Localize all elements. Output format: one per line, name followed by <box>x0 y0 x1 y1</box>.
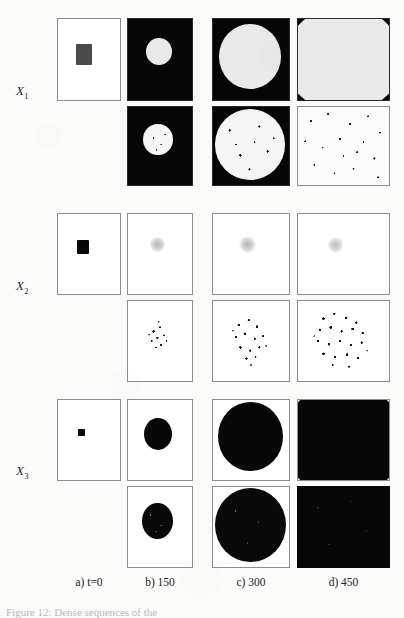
column-caption-a: a) t=0 <box>57 576 121 588</box>
panel-x2-t300-smooth <box>212 213 290 295</box>
shape-square <box>78 429 85 436</box>
panel-x2-t0-smooth <box>57 213 121 295</box>
panel-x2-t450-noisy <box>297 300 390 382</box>
speckle-overlay <box>298 107 389 185</box>
panel-x1-t300-smooth <box>212 18 290 101</box>
panel-x1-t0-smooth <box>57 18 121 101</box>
shape-diffuse-blob <box>150 236 165 253</box>
panel-x3-t150-noisy <box>127 486 193 568</box>
figure-caption: Figure 12: Dense sequences of the <box>6 606 398 618</box>
panel-x3-t0-smooth <box>57 399 121 481</box>
row-label-x2: X2 <box>16 278 29 296</box>
shape-diffuse-blob <box>327 237 344 253</box>
shape-circle <box>219 24 281 89</box>
panel-x3-t450-smooth <box>297 399 390 481</box>
panel-x1-t450-smooth <box>297 18 390 101</box>
row-label-x3-base: X <box>16 463 24 478</box>
row-label-x3-sub: 3 <box>24 471 28 481</box>
row-label-x1: X1 <box>16 83 29 101</box>
shape-diffuse-blob <box>239 236 256 253</box>
panel-x1-t300-noisy <box>212 106 290 186</box>
speckle-overlay <box>213 487 289 567</box>
panel-x2-t150-smooth <box>127 213 193 295</box>
panel-x2-t450-smooth <box>297 213 390 295</box>
shape-circle <box>146 38 172 65</box>
panel-x3-t450-noisy <box>297 486 390 568</box>
panel-x3-t300-smooth <box>212 399 290 481</box>
shape-circle <box>297 18 390 101</box>
panel-x3-t300-noisy <box>212 486 290 568</box>
row-label-x2-sub: 2 <box>24 286 28 296</box>
speckle-overlay <box>128 107 192 185</box>
shape-circle <box>218 402 283 471</box>
speckle-overlay <box>128 487 192 567</box>
panel-x1-t150-noisy <box>127 106 193 186</box>
row-label-x1-base: X <box>16 83 24 98</box>
shape-square <box>77 240 89 254</box>
speckle-cluster <box>298 301 389 381</box>
column-caption-d: d) 450 <box>297 576 390 588</box>
speckle-cluster <box>213 301 289 381</box>
shape-circle <box>144 418 172 450</box>
column-caption-c: c) 300 <box>212 576 290 588</box>
row-label-x3: X3 <box>16 463 29 481</box>
panel-x1-t150-smooth <box>127 18 193 101</box>
panel-x2-t150-noisy <box>127 300 193 382</box>
shape-square <box>76 44 92 65</box>
speckle-cluster <box>128 301 192 381</box>
column-caption-b: b) 150 <box>127 576 193 588</box>
shape-circle <box>297 399 390 481</box>
speckle-overlay <box>213 107 289 185</box>
panel-x1-t450-noisy <box>297 106 390 186</box>
row-label-x1-sub: 1 <box>24 91 28 101</box>
speckle-overlay <box>298 487 389 567</box>
panel-x3-t150-smooth <box>127 399 193 481</box>
row-label-x2-base: X <box>16 278 24 293</box>
panel-x2-t300-noisy <box>212 300 290 382</box>
